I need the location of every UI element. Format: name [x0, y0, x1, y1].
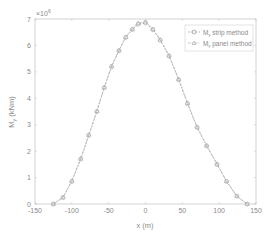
legend: My strip method My panel method	[185, 25, 253, 51]
y-tick-label: 4	[27, 95, 31, 102]
x-axis-label: x (m)	[136, 221, 154, 230]
y-tick-label: 0	[27, 201, 31, 208]
x-tick-label: -100	[65, 207, 79, 214]
y-tick-label: 3	[27, 121, 31, 128]
y-tick-label: 7	[27, 16, 31, 23]
y-multiplier: ×106	[36, 8, 51, 17]
x-tick-label: 150	[250, 207, 262, 214]
x-tick-label: 50	[178, 207, 186, 214]
y-tick-label: 5	[27, 68, 31, 75]
y-axis-label: My (kNm)	[7, 96, 17, 128]
x-tick-label: 0	[144, 207, 148, 214]
y-tick-label: 2	[27, 148, 31, 155]
x-tick-label: -50	[104, 207, 114, 214]
chart: -150-100-50050100150 01234567 ×106 x (m)…	[0, 0, 275, 235]
x-tick-label: 100	[213, 207, 225, 214]
y-tick-label: 6	[27, 42, 31, 49]
x-tick-label: -150	[28, 207, 42, 214]
y-tick-label: 1	[27, 174, 31, 181]
